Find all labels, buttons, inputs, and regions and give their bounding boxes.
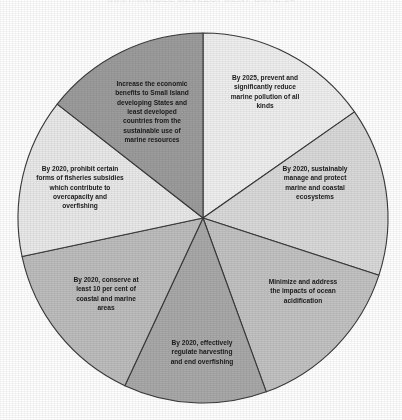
pie-chart-figure: SUSTAINABLE DEVELOPMENT GOAL 14 By 2025,… xyxy=(0,0,402,420)
pie-slice-group xyxy=(18,33,388,403)
pie-chart-svg xyxy=(0,0,402,420)
